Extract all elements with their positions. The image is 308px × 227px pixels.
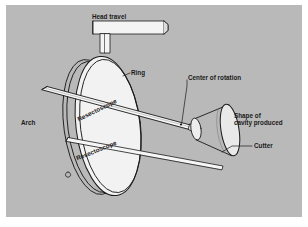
figure-container: Head travel Ring Arch Center of rotation… — [0, 0, 308, 227]
leader-center-of-rotation — [182, 80, 187, 124]
label-arch: Arch — [21, 119, 35, 126]
label-shape-of-cavity: Shape of cavity produced — [234, 112, 283, 127]
support-post — [100, 34, 110, 53]
label-shape-of-cavity-line1: Shape of — [234, 112, 283, 119]
label-ring: Ring — [131, 69, 145, 76]
label-shape-of-cavity-line2: cavity produced — [234, 119, 283, 126]
label-head-travel: Head travel — [92, 13, 126, 20]
label-cutter: Cutter — [254, 142, 273, 149]
label-center-of-rotation: Center of rotation — [188, 74, 241, 81]
head-travel-bar — [93, 21, 168, 34]
